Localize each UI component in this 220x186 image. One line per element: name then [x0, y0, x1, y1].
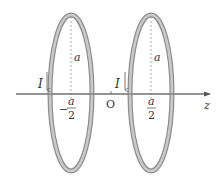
left-position-denominator: 2 [68, 109, 75, 122]
left-position-sign: − [59, 103, 68, 116]
right-radius-label: a [154, 51, 161, 64]
origin-label: O [106, 98, 115, 111]
z-axis-label: z [203, 99, 210, 112]
right-coil [130, 15, 172, 171]
right-position-numerator: a [148, 95, 155, 108]
helmholtz-coil-diagram: a a I I O z − a 2 a 2 [0, 0, 220, 186]
left-coil [50, 15, 92, 171]
left-current-label: I [37, 77, 43, 91]
left-radius-label: a [74, 51, 81, 64]
right-current-label: I [114, 77, 120, 91]
left-position-numerator: a [68, 95, 75, 108]
right-position-denominator: 2 [148, 109, 155, 122]
